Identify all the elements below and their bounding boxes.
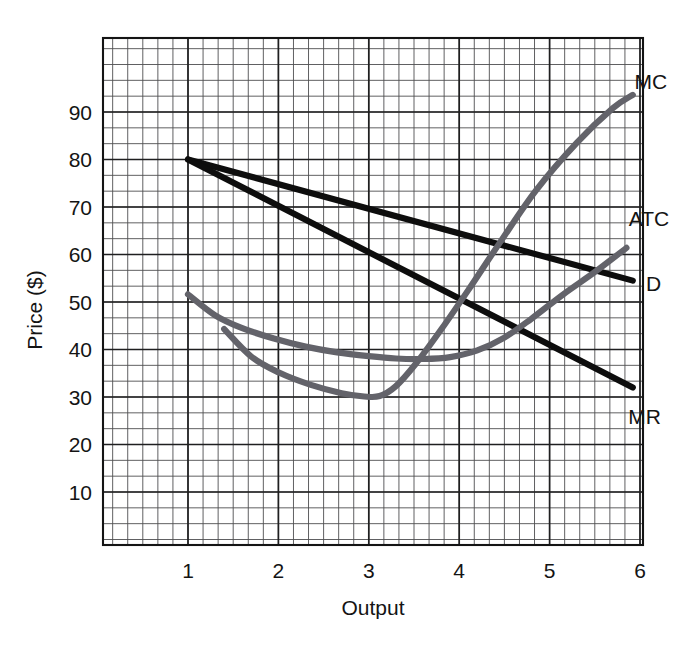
y-axis-title: Price ($) [23, 270, 46, 349]
y-tick-label-20: 20 [69, 433, 92, 456]
y-tick-label-30: 30 [69, 386, 92, 409]
x-tick-label-3: 3 [363, 559, 375, 582]
y-tick-label-50: 50 [69, 291, 92, 314]
figure-root: 123456 102030405060708090 MCATCDMR Outpu… [0, 0, 683, 648]
y-tick-label-70: 70 [69, 196, 92, 219]
curve-label-d: D [646, 272, 661, 295]
curve-label-mr: MR [628, 405, 661, 428]
curve-label-atc: ATC [629, 207, 669, 230]
x-axis-title: Output [341, 596, 404, 619]
y-tick-label-90: 90 [69, 101, 92, 124]
x-tick-label-1: 1 [182, 559, 194, 582]
x-tick-label-5: 5 [544, 559, 556, 582]
curve-label-mc: MC [634, 70, 667, 93]
x-tick-label-6: 6 [634, 559, 646, 582]
x-tick-label-2: 2 [273, 559, 285, 582]
y-tick-label-10: 10 [69, 481, 92, 504]
y-tick-label-80: 80 [69, 148, 92, 171]
y-axis-tick-labels: 102030405060708090 [69, 101, 92, 504]
x-tick-label-4: 4 [453, 559, 465, 582]
cost-revenue-chart: 123456 102030405060708090 MCATCDMR Outpu… [0, 0, 683, 648]
y-tick-label-40: 40 [69, 338, 92, 361]
y-tick-label-60: 60 [69, 243, 92, 266]
